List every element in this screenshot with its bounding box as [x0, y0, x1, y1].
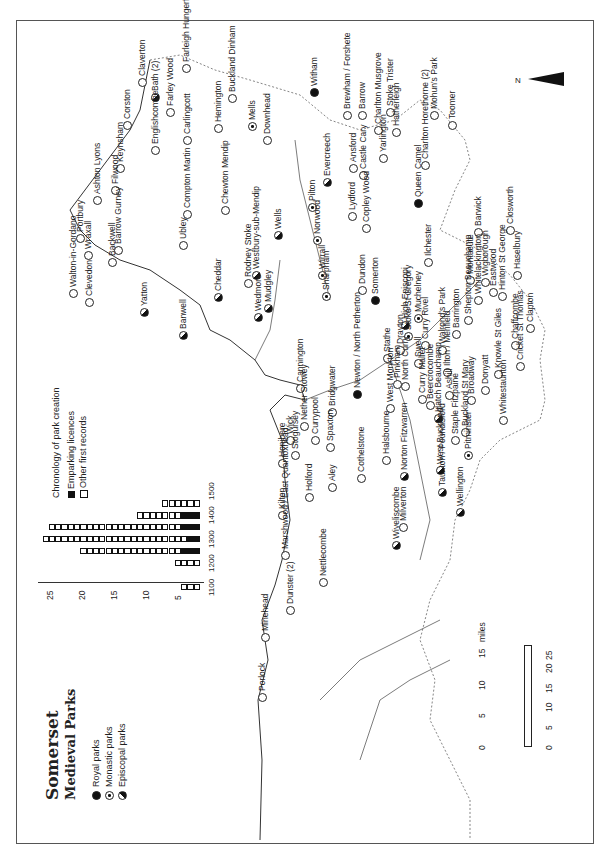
site-label: Stoke St Gregory [404, 265, 413, 330]
chart-cell [169, 548, 175, 554]
chart-cell [175, 536, 181, 542]
episcopal-park-marker [264, 304, 273, 313]
chart-cell [162, 536, 168, 542]
scale-miles-5: 5 [478, 713, 487, 718]
site-label: Copley Wood [362, 171, 371, 222]
episcopal-park-marker [140, 308, 149, 317]
site-label: Sharpham [322, 251, 331, 290]
site-label: Wellington [456, 466, 465, 506]
chart-cell [194, 560, 200, 566]
other-park-marker [513, 271, 522, 280]
chart-cell [150, 548, 156, 554]
chart-cell [55, 536, 61, 542]
site-label: Toomer [448, 91, 457, 119]
site-label: Farleigh Hungerford [182, 0, 191, 62]
site-label: Bath (2) [151, 61, 160, 91]
century-1100: 1100 [207, 579, 216, 596]
legend-royal: Royal parks [92, 739, 101, 800]
chart-cell [175, 524, 181, 530]
century-1200: 1200 [207, 554, 216, 572]
chart-cell [187, 524, 193, 530]
chart-cell [61, 536, 67, 542]
site-label: Hatch Beauchamp [434, 342, 443, 412]
site-label: Hatherleigh [392, 83, 401, 126]
chart-cell [131, 536, 137, 542]
chart-cell [55, 524, 61, 530]
site-label: Carlingcott [183, 93, 192, 134]
legend-monastic: Monastic parks [105, 726, 114, 800]
other-park-marker [258, 693, 267, 702]
site-label: Wedmore [254, 274, 263, 311]
chart-cell [162, 548, 168, 554]
chart-cell [187, 548, 193, 554]
chart-cell [194, 584, 200, 590]
site-label: Ubley [179, 217, 188, 239]
chart-cell [112, 536, 118, 542]
chart-cell [181, 500, 187, 506]
chart-cell [156, 524, 162, 530]
chart-cell [49, 524, 55, 530]
other-records-label: Other first records [78, 416, 88, 488]
episcopal-park-marker [438, 488, 447, 497]
chart-cell [74, 524, 80, 530]
site-label: Buckland Dinham [228, 25, 237, 92]
site-label: Chewton Mendip [221, 140, 230, 204]
site-label: Bridgwater [328, 365, 337, 406]
site-label: Staple Fitzpaine [451, 373, 460, 434]
site-label: Evercreech [323, 133, 332, 176]
episcopal-park-marker [179, 331, 188, 340]
chart-cell [87, 536, 93, 542]
chart-cell [181, 512, 187, 518]
other-park-marker [362, 224, 371, 233]
chart-cell [143, 512, 149, 518]
other-park-marker [498, 292, 507, 301]
royal-park-marker [310, 88, 319, 97]
episcopal-park-marker [456, 508, 465, 517]
site-label: Brewham / Forshete [343, 32, 352, 109]
site-label: Mells [248, 100, 257, 120]
chart-cell [187, 584, 193, 590]
map-title: Somerset [48, 710, 57, 800]
episcopal-park-marker [323, 178, 332, 187]
site-label: Closworth [506, 186, 515, 224]
other-park-marker [228, 94, 237, 103]
scale-km-20: 20 [545, 664, 554, 673]
royal-park-icon [92, 791, 101, 800]
legend-royal-label: Royal parks [91, 739, 101, 787]
chart-cell [169, 524, 175, 530]
chart-cell [181, 524, 187, 530]
chart-cell [99, 548, 105, 554]
other-park-marker [448, 121, 457, 130]
site-label: Filwood [111, 155, 120, 184]
site-label: Wiveliscombe [392, 487, 401, 539]
chart-cell [131, 524, 137, 530]
chart-cell [194, 536, 200, 542]
chart-cell [68, 536, 74, 542]
chart-cell [61, 524, 67, 530]
other-park-marker [349, 164, 358, 173]
site-label: Yarlington [379, 114, 388, 152]
chart-tick-25: 25 [46, 591, 55, 600]
site-label: Witham [310, 57, 319, 86]
site-label: Rodney Stoke [244, 224, 253, 277]
monastic-park-marker [322, 292, 331, 301]
chart-cell [106, 524, 112, 530]
other-park-marker [401, 382, 410, 391]
site-label: Clapton [526, 293, 535, 322]
royal-park-marker [353, 390, 362, 399]
site-label: Westbury-sub-Mendip [252, 186, 261, 269]
episcopal-park-marker [274, 231, 283, 240]
century-1300: 1300 [207, 530, 216, 548]
chart-cell [175, 560, 181, 566]
other-park-marker [499, 416, 508, 425]
other-park-marker [182, 64, 191, 73]
site-label: Yatton [140, 282, 149, 306]
monastic-park-icon [105, 791, 114, 800]
other-park-marker [319, 578, 328, 587]
scale-km-0: 0 [545, 745, 554, 750]
legend-episcopal-label: Episcopal parks [117, 723, 127, 787]
site-label: Mohun's Park [430, 57, 439, 109]
north-arrow-icon [528, 72, 564, 86]
chart-cell [169, 512, 175, 518]
site-label: Englishcombe [151, 91, 160, 144]
